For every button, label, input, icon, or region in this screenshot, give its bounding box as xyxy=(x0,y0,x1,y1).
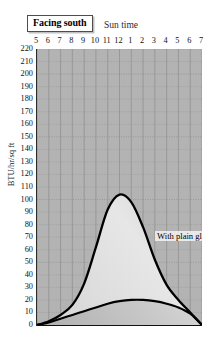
y-tick-label: 90 xyxy=(8,208,33,216)
solar-heat-gain-chart: Facing south Sun time BTU/hr/sq ft 56789… xyxy=(0,0,211,343)
plot-canvas xyxy=(37,49,202,325)
y-tick-label: 190 xyxy=(8,83,33,91)
label-plain-glass: With plain glass xyxy=(155,231,202,241)
plot-area: With plain glass With black Shade Screen xyxy=(36,49,202,326)
sun-time-axis-label: Sun time xyxy=(104,20,138,31)
y-tick-label: 70 xyxy=(8,233,33,241)
y-tick-label: 160 xyxy=(8,120,33,128)
x-tick-label: 7 xyxy=(193,36,209,46)
y-tick-label: 220 xyxy=(8,45,33,53)
facing-south-title-box: Facing south xyxy=(27,15,93,32)
y-tick-label: 130 xyxy=(8,158,33,166)
y-tick-label: 20 xyxy=(8,296,33,304)
y-tick-label: 30 xyxy=(8,283,33,291)
y-tick-label: 10 xyxy=(8,308,33,316)
y-axis-tick-labels: 2202102001901801701601501401301201101009… xyxy=(8,44,33,328)
y-tick-label: 140 xyxy=(8,145,33,153)
y-tick-label: 100 xyxy=(8,196,33,204)
y-tick-label: 170 xyxy=(8,108,33,116)
y-tick-label: 40 xyxy=(8,271,33,279)
y-tick-label: 0 xyxy=(8,321,33,329)
y-tick-label: 210 xyxy=(8,58,33,66)
y-tick-label: 60 xyxy=(8,246,33,254)
y-tick-label: 120 xyxy=(8,170,33,178)
y-tick-label: 180 xyxy=(8,95,33,103)
y-tick-label: 200 xyxy=(8,70,33,78)
y-tick-label: 110 xyxy=(8,183,33,191)
y-tick-label: 50 xyxy=(8,258,33,266)
x-axis-tick-labels: 567891011121234567 xyxy=(36,36,201,48)
y-tick-label: 150 xyxy=(8,133,33,141)
y-tick-label: 80 xyxy=(8,221,33,229)
